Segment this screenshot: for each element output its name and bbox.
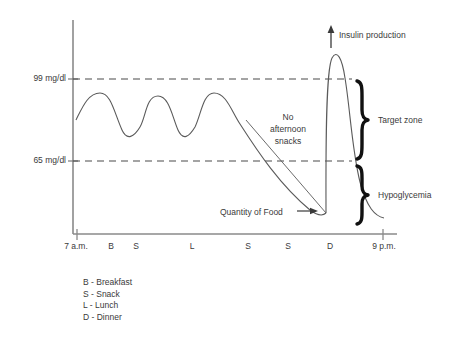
- chart-canvas: [0, 0, 475, 348]
- legend-item-lunch: L - Lunch: [83, 300, 132, 312]
- x-axis-label-7am: 7 a.m.: [56, 241, 96, 252]
- legend-item-dinner: D - Dinner: [83, 312, 132, 324]
- glucose-curve-dinner-spike: [326, 55, 384, 218]
- legend: B - Breakfast S - Snack L - Lunch D - Di…: [83, 277, 132, 323]
- x-axis-label-dinner: D: [320, 241, 340, 252]
- hypoglycemia-label: Hypoglycemia: [378, 190, 431, 201]
- insulin-production-label: Insulin production: [339, 30, 406, 41]
- legend-item-breakfast: B - Breakfast: [83, 277, 132, 289]
- x-axis-label-9pm: 9 p.m.: [364, 241, 404, 252]
- no-afternoon-snacks-line2: afternoon: [257, 124, 319, 135]
- x-axis-label-snack-evening: S: [278, 241, 298, 252]
- target-zone-brace: [357, 81, 368, 159]
- no-afternoon-snacks-line1: No: [257, 112, 319, 123]
- x-axis-label-snack-morning: S: [126, 241, 146, 252]
- glucose-chart-figure: 99 mg/dl 65 mg/dl 7 a.m. B S L S S D 9 p…: [0, 0, 475, 348]
- legend-item-snack: S - Snack: [83, 289, 132, 301]
- no-afternoon-snacks-line3: snacks: [257, 136, 319, 147]
- x-axis-label-snack-afternoon: S: [238, 241, 258, 252]
- target-zone-label: Target zone: [378, 115, 422, 126]
- x-axis-label-lunch: L: [182, 241, 202, 252]
- up-arrow-icon: [328, 25, 335, 48]
- y-axis-label-65: 65 mg/dl: [16, 155, 66, 166]
- y-axis-label-99: 99 mg/dl: [16, 73, 66, 84]
- quantity-of-food-label: Quantity of Food: [220, 207, 283, 218]
- x-axis-label-breakfast: B: [101, 241, 121, 252]
